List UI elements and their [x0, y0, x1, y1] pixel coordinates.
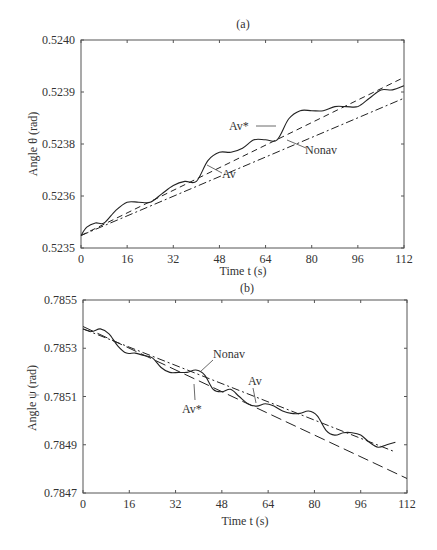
panel-b-frame [83, 300, 407, 493]
y-tick-label: 0.5238 [42, 137, 75, 151]
panel-a-av-leader [207, 165, 222, 173]
x-tick-label: 16 [123, 497, 135, 511]
x-tick-label: 96 [352, 252, 364, 266]
panel-a-y-label: Angle θ (rad) [26, 112, 40, 176]
x-tick-label: 48 [216, 497, 228, 511]
panel-a-title: (a) [236, 17, 249, 31]
series-nonav [81, 86, 404, 236]
panel-b-nonav-leader [200, 360, 213, 372]
y-tick-label: 0.7847 [44, 486, 77, 500]
panel-b-title: (b) [240, 281, 254, 295]
panel-a-frame [81, 40, 404, 248]
y-tick-label: 0.5240 [42, 33, 75, 47]
panel-a-y-ticks: 0.52350.52360.52380.52390.5240 [42, 33, 404, 255]
x-tick-label: 0 [78, 252, 84, 266]
panel-a-av-label: Av [222, 167, 236, 181]
panel-b-avstar-label: Av* [182, 402, 202, 416]
x-tick-label: 112 [398, 497, 416, 511]
series-av-star [81, 77, 404, 235]
series-av-star [83, 327, 407, 479]
x-tick-label: 0 [80, 497, 86, 511]
x-tick-label: 32 [167, 252, 179, 266]
x-tick-label: 64 [262, 497, 274, 511]
y-tick-label: 0.7851 [44, 390, 77, 404]
panel-a-series [81, 77, 404, 235]
y-tick-label: 0.7853 [44, 341, 77, 355]
x-tick-label: 112 [395, 252, 413, 266]
panel-a: (a) 0163248648096112 0.52350.52360.52380… [26, 17, 413, 278]
panel-b-x-ticks: 0163248648096112 [80, 300, 416, 511]
panel-a-nonav-label: Nonav [305, 143, 337, 157]
y-tick-label: 0.5236 [42, 189, 75, 203]
x-tick-label: 80 [308, 497, 320, 511]
x-tick-label: 80 [306, 252, 318, 266]
panel-b-series [83, 327, 407, 479]
panel-b-y-ticks: 0.78470.78490.78510.78530.7855 [44, 293, 407, 500]
y-tick-label: 0.7849 [44, 438, 77, 452]
panel-b-av-leader [253, 388, 256, 403]
x-tick-label: 96 [355, 497, 367, 511]
panel-b: (b) 0163248648096112 0.78470.78490.78510… [25, 281, 416, 528]
x-tick-label: 32 [170, 497, 182, 511]
panel-b-nonav-label: Nonav [213, 347, 245, 361]
panel-a-x-ticks: 0163248648096112 [78, 40, 413, 266]
panel-b-y-label: Angle ψ (rad) [25, 365, 39, 431]
panel-b-av-label: Av [248, 374, 262, 388]
panel-a-avstar-label: Av* [229, 119, 249, 133]
figure: (a) 0163248648096112 0.52350.52360.52380… [0, 0, 437, 550]
panel-a-x-label: Time t (s) [220, 264, 267, 278]
panel-b-avstar-leader [194, 384, 195, 400]
y-tick-label: 0.5235 [42, 241, 75, 255]
y-tick-label: 0.5239 [42, 85, 75, 99]
y-tick-label: 0.7855 [44, 293, 77, 307]
x-tick-label: 16 [121, 252, 133, 266]
panel-b-x-label: Time t (s) [222, 514, 269, 528]
